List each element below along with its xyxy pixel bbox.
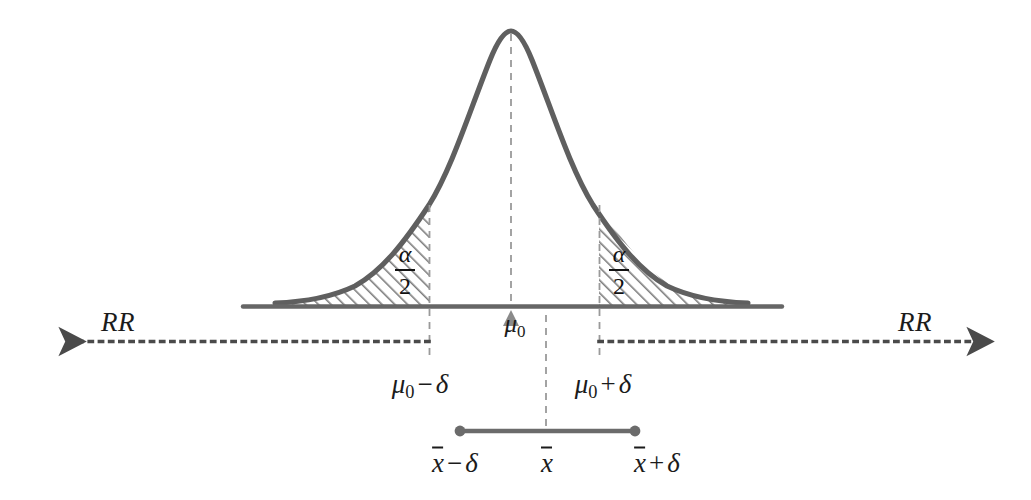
xbar-symbol: x xyxy=(634,448,646,479)
plus-operator: + xyxy=(597,369,618,399)
normal-curve-svg xyxy=(0,0,1031,500)
minus-operator: − xyxy=(444,448,465,478)
mu0-plus-delta-label: μ0+δ xyxy=(575,369,632,403)
mu0-minus-delta-label: μ0−δ xyxy=(392,369,449,403)
delta-symbol: δ xyxy=(619,369,632,399)
mu0-subscript: 0 xyxy=(517,322,526,341)
minus-operator: − xyxy=(414,369,435,399)
plus-operator: + xyxy=(646,448,667,478)
xbar-plus-delta-label: x+δ xyxy=(634,448,680,479)
mu-subscript: 0 xyxy=(588,382,597,402)
interval-endpoint-right xyxy=(630,426,641,437)
xbar-symbol: x xyxy=(541,448,553,479)
xbar-symbol: x xyxy=(432,448,444,479)
delta-symbol: δ xyxy=(436,369,449,399)
delta-symbol: δ xyxy=(667,448,680,478)
alpha-denominator-right: 2 xyxy=(613,273,625,298)
mu-symbol: μ xyxy=(575,369,589,399)
fraction-bar-right xyxy=(609,269,629,271)
alpha-over-two-label-left: α 2 xyxy=(395,242,415,298)
alpha-over-two-label-right: α 2 xyxy=(609,242,629,298)
xbar-minus-delta-label: x−δ xyxy=(432,448,478,479)
mu-subscript: 0 xyxy=(405,382,414,402)
fraction-bar-left xyxy=(395,269,415,271)
delta-symbol: δ xyxy=(465,448,478,478)
rejection-region-label-right: RR xyxy=(898,307,932,338)
mu0-symbol: μ xyxy=(504,310,517,337)
mu-symbol: μ xyxy=(392,369,406,399)
interval-endpoint-left xyxy=(455,426,466,437)
alpha-denominator-left: 2 xyxy=(399,273,411,298)
xbar-center-label: x xyxy=(541,448,553,479)
alpha-numerator-right: α xyxy=(613,242,626,267)
alpha-numerator-left: α xyxy=(399,242,412,267)
figure-canvas: RR RR α 2 α 2 μ0 μ0−δ μ0+δ x−δ x x+δ xyxy=(0,0,1031,500)
mu0-label: μ0 xyxy=(504,310,525,342)
rejection-region-label-left: RR xyxy=(101,307,135,338)
